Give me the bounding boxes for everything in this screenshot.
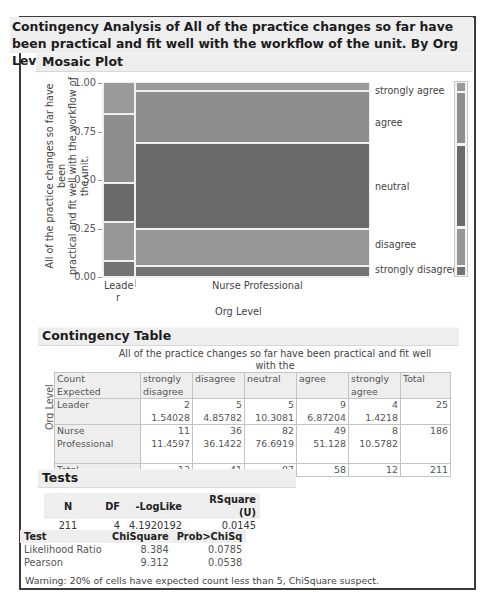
table-cell: 96.87204 [297, 399, 349, 425]
table-cell: 54.85782 [193, 399, 245, 425]
x-tick-divider [135, 279, 136, 287]
mosaic-section-title: Mosaic Plot [42, 54, 123, 69]
table-cell: 21.54028 [141, 399, 193, 425]
row-total: 25 [401, 399, 451, 425]
mosaic-cell-leader-disagree[interactable] [104, 223, 134, 260]
y-tick: 0.00 [66, 271, 96, 282]
x-category-leader: Leade [104, 280, 134, 291]
y-tick: 0.75 [66, 126, 96, 137]
mosaic-cell-leader-strongly-agree[interactable] [104, 83, 134, 113]
table-row: Nurse Professional 1111.4597 3636.1422 8… [55, 425, 451, 464]
column-title-line1: All of the practice changes so far have … [110, 348, 440, 372]
mosaic-cell-nurse-strongly-agree[interactable] [136, 83, 369, 90]
tests-chisq-table: Test ChiSquare Prob>ChiSq Likelihood Rat… [20, 530, 246, 569]
test-chisq: 9.312 [108, 556, 173, 569]
test-name: Pearson [20, 556, 108, 569]
legend-label-strongly-agree: strongly agree [375, 85, 444, 96]
chisq-warning: Warning: 20% of cells have expected coun… [25, 575, 379, 586]
corner-header: CountExpected [55, 373, 141, 399]
mosaic-cell-nurse-strongly-disagree[interactable] [136, 267, 369, 276]
column-header[interactable]: stronglydisagree [141, 373, 193, 399]
mosaic-cell-nurse-agree[interactable] [136, 92, 369, 142]
test-row: Pearson 9.312 0.0538 [20, 556, 246, 569]
table-cell: 3636.1422 [193, 425, 245, 464]
total-cell: 58 [297, 463, 349, 477]
row-label: Nurse Professional [55, 425, 141, 464]
table-cell: 810.5782 [349, 425, 401, 464]
legend-label-strongly-disagree: strongly disagree [375, 264, 458, 275]
y-tick: 0.25 [66, 223, 96, 234]
column-header[interactable]: agree [297, 373, 349, 399]
row-total: 186 [401, 425, 451, 464]
tests-section-title: Tests [42, 470, 78, 485]
column-header[interactable]: neutral [245, 373, 297, 399]
table-row: Leader 21.54028 54.85782 510.3081 96.872… [55, 399, 451, 425]
mosaic-cell-leader-agree[interactable] [104, 115, 134, 182]
mosaic-cell-nurse-neutral[interactable] [136, 144, 369, 228]
mosaic-cell-nurse-disagree[interactable] [136, 230, 369, 265]
header-n: N [44, 493, 92, 519]
table-header-row: CountExpected stronglydisagree disagree … [55, 373, 451, 399]
header-prob: Prob>ChiSq [173, 530, 247, 543]
header-chisquare: ChiSquare [108, 530, 173, 543]
mosaic-cell-leader-neutral[interactable] [104, 184, 134, 221]
column-header[interactable]: Total [401, 373, 451, 399]
total-cell: 12 [349, 463, 401, 477]
table-cell: 4951.128 [297, 425, 349, 464]
legend-swatch-disagree[interactable] [457, 229, 465, 265]
legend-label-agree: agree [375, 117, 403, 128]
column-header[interactable]: disagree [193, 373, 245, 399]
test-prob: 0.0538 [173, 556, 247, 569]
row-label: Leader [55, 399, 141, 425]
column-header[interactable]: stronglyagree [349, 373, 401, 399]
legend-swatch-neutral[interactable] [457, 146, 465, 226]
table-cell: 8276.6919 [245, 425, 297, 464]
test-chisq: 8.384 [108, 543, 173, 556]
mosaic-cell-leader-strongly-disagree[interactable] [104, 262, 134, 276]
test-row: Likelihood Ratio 8.384 0.0785 [20, 543, 246, 556]
x-axis-title: Org Level [215, 306, 262, 317]
grand-total: 211 [401, 463, 451, 477]
legend-swatch-strongly-agree[interactable] [457, 83, 465, 91]
x-category-nurse-professional: Nurse Professional [212, 280, 303, 291]
test-name: Likelihood Ratio [20, 543, 108, 556]
header-test: Test [20, 530, 108, 543]
y-label-line1: All of the practice changes so far have … [44, 76, 67, 276]
x-category-leader-wrap: r [116, 292, 120, 303]
legend-swatch-agree[interactable] [457, 93, 465, 143]
test-prob: 0.0785 [173, 543, 247, 556]
tests-summary-table: N DF -LogLike RSquare (U) 211 4 4.192019… [44, 493, 260, 532]
table-cell: 510.3081 [245, 399, 297, 425]
y-tick: 0.50 [66, 174, 96, 185]
header-loglike: -LogLike [124, 493, 186, 519]
legend-label-neutral: neutral [375, 181, 409, 192]
contingency-table: CountExpected stronglydisagree disagree … [54, 372, 451, 477]
table-cell: 41.4218 [349, 399, 401, 425]
table-cell: 1111.4597 [141, 425, 193, 464]
y-tick: 1.00 [66, 77, 96, 88]
legend-label-disagree: disagree [375, 239, 416, 250]
header-df: DF [92, 493, 124, 519]
header-rsquare: RSquare (U) [186, 493, 260, 519]
legend-swatch-strongly-disagree[interactable] [457, 267, 465, 275]
contingency-section-title: Contingency Table [42, 328, 171, 343]
